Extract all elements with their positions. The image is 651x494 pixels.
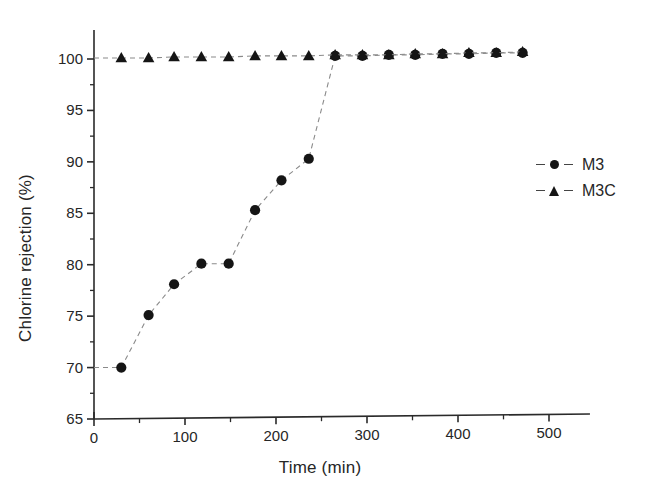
x-tick-label: 400 [438, 425, 478, 442]
data-point-m3c [168, 51, 180, 61]
y-tick-label: 70 [49, 359, 83, 376]
data-point-m3c [196, 51, 208, 61]
legend-line-right [564, 190, 573, 191]
x-axis-title: Time (min) [180, 458, 460, 478]
data-point-m3c [143, 52, 155, 62]
series-m3 [94, 48, 528, 373]
chart-axes [87, 30, 590, 426]
data-point-m3 [116, 362, 126, 372]
data-point-m3 [169, 279, 179, 289]
y-tick-label: 80 [49, 256, 83, 273]
data-point-m3 [250, 205, 260, 215]
data-point-m3c [249, 50, 261, 60]
chart-figure: 65707580859095100 0100200300400500 Chlor… [0, 0, 651, 494]
legend-item-m3c[interactable]: M3C [536, 178, 640, 204]
data-point-m3 [276, 175, 286, 185]
data-point-m3 [144, 310, 154, 320]
x-tick-label: 300 [347, 426, 387, 443]
circle-marker-icon [550, 160, 559, 169]
triangle-marker-icon [549, 186, 559, 196]
y-tick-label: 65 [49, 410, 83, 427]
x-tick-label: 0 [74, 429, 114, 446]
chart-series [94, 46, 528, 373]
y-tick-label: 90 [49, 153, 83, 170]
legend-marker-triangle-icon [536, 184, 576, 198]
legend-label: M3C [582, 182, 616, 200]
data-point-m3c [276, 50, 288, 60]
data-point-m3 [304, 154, 314, 164]
chart-legend: M3M3C [536, 152, 640, 204]
y-tick-label: 95 [49, 101, 83, 118]
legend-marker-circle-icon [536, 158, 576, 172]
legend-label: M3 [582, 156, 604, 174]
series-m3c [94, 46, 528, 62]
data-point-m3 [224, 259, 234, 269]
data-point-m3c [116, 52, 128, 62]
x-tick-label: 500 [529, 424, 569, 441]
legend-line-right [564, 164, 573, 165]
x-tick-label: 100 [165, 428, 205, 445]
chart-plot-area [0, 0, 651, 494]
legend-item-m3[interactable]: M3 [536, 152, 640, 178]
data-point-m3c [303, 50, 315, 60]
y-tick-label: 100 [49, 50, 83, 67]
x-tick-label: 200 [256, 427, 296, 444]
y-axis-title: Chlorine rejection (%) [16, 158, 36, 358]
y-tick-label: 75 [49, 307, 83, 324]
legend-line-left [536, 164, 545, 165]
data-point-m3c [223, 51, 235, 61]
data-point-m3 [196, 259, 206, 269]
y-tick-label: 85 [49, 204, 83, 221]
legend-line-left [536, 190, 545, 191]
